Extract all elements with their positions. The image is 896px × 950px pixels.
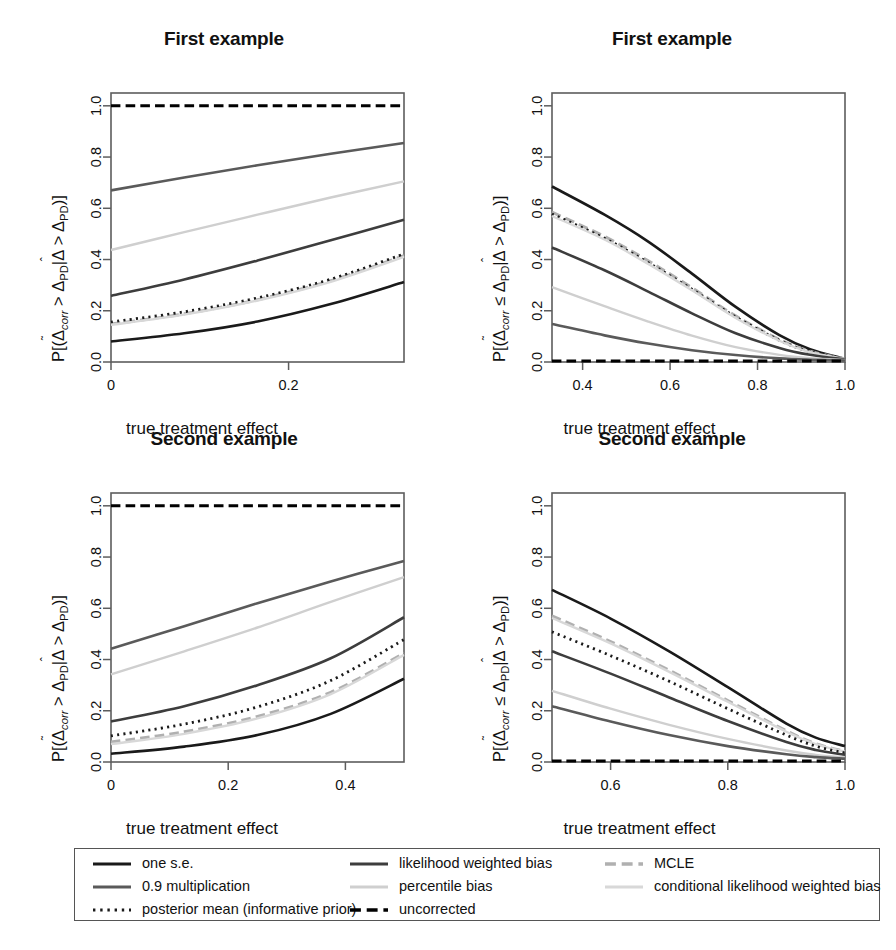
plot-area: 0.00.20.40.60.81.000.2 — [0, 20, 448, 420]
legend-item-mult09[interactable]: 0.9 multiplication — [93, 875, 356, 898]
y-tick-label: 0.6 — [529, 598, 545, 618]
series-line-posterior — [111, 254, 404, 322]
series-line-posterior — [552, 632, 845, 753]
legend-column-2: likelihood weighted biaspercentile biasu… — [350, 852, 552, 921]
series-line-lwb — [111, 220, 404, 296]
y-tick-label: 0.2 — [529, 301, 545, 321]
legend-label-clwb: conditional likelihood weighted bias — [654, 879, 881, 894]
x-tick-label: 0.4 — [573, 377, 593, 393]
y-tick-label: 0.0 — [529, 752, 545, 772]
series-line-percentile — [111, 181, 404, 250]
x-tick-label: 1.0 — [835, 377, 855, 393]
x-tick-label: 0.8 — [747, 377, 767, 393]
x-axis-label: true treatment effect — [0, 819, 404, 839]
chart-panel-bottom-right: Second exampletrue treatment effectP[(Δ̃… — [448, 420, 896, 820]
y-tick-label: 0.4 — [88, 249, 104, 269]
legend-label-uncorrected: uncorrected — [399, 902, 476, 917]
chart-panel-bottom-left: Second exampletrue treatment effectP[(Δ̃… — [0, 420, 448, 820]
series-line-mult09 — [552, 324, 845, 360]
y-tick-label: 0.6 — [88, 198, 104, 218]
series-line-mcle — [111, 256, 404, 324]
y-tick-label: 0.0 — [529, 352, 545, 372]
y-tick-label: 0.8 — [529, 147, 545, 167]
legend-label-posterior: posterior mean (informative prior) — [142, 902, 356, 917]
y-tick-label: 0.2 — [88, 701, 104, 721]
series-line-clwb — [111, 257, 404, 325]
y-tick-label: 0.4 — [88, 649, 104, 669]
legend-item-mcle[interactable]: MCLE — [605, 852, 881, 875]
plot-area: 0.00.20.40.60.81.00.40.60.81.0 — [448, 20, 896, 420]
plot-area: 0.00.20.40.60.81.00.60.81.0 — [448, 420, 896, 820]
series-line-lwb — [111, 617, 404, 721]
series-line-mult09 — [111, 561, 404, 649]
series-line-posterior — [111, 640, 404, 736]
legend-swatch-lwb — [350, 857, 388, 871]
chart-panel-top-left: First exampletrue treatment effectP[(Δ̃c… — [0, 20, 448, 420]
y-tick-label: 1.0 — [529, 96, 545, 116]
legend-swatch-posterior — [93, 903, 131, 917]
figure-root: First exampletrue treatment effectP[(Δ̃c… — [0, 0, 896, 950]
x-axis-label: true treatment effect — [441, 819, 838, 839]
legend-box: one s.e.0.9 multiplicationposterior mean… — [74, 848, 880, 921]
legend-swatch-uncorrected — [350, 903, 388, 917]
x-tick-label: 1.0 — [835, 777, 855, 793]
legend-column-1: one s.e.0.9 multiplicationposterior mean… — [93, 852, 356, 921]
legend-item-posterior[interactable]: posterior mean (informative prior) — [93, 898, 356, 921]
legend-swatch-clwb — [605, 880, 643, 894]
legend-label-percentile: percentile bias — [399, 879, 493, 894]
x-tick-label: 0.4 — [335, 777, 355, 793]
legend-swatch-mult09 — [93, 880, 131, 894]
series-line-one_se — [111, 282, 404, 341]
x-tick-label: 0 — [107, 377, 115, 393]
y-tick-label: 0.0 — [88, 352, 104, 372]
y-tick-label: 1.0 — [88, 496, 104, 516]
legend-item-percentile[interactable]: percentile bias — [350, 875, 552, 898]
x-tick-label: 0.2 — [218, 777, 238, 793]
legend-item-lwb[interactable]: likelihood weighted bias — [350, 852, 552, 875]
x-tick-label: 0.8 — [718, 777, 738, 793]
legend-item-clwb[interactable]: conditional likelihood weighted bias — [605, 875, 881, 898]
plot-frame — [552, 93, 845, 362]
y-tick-label: 0.2 — [529, 701, 545, 721]
y-tick-label: 0.4 — [529, 649, 545, 669]
x-tick-label: 0.6 — [660, 377, 680, 393]
legend-swatch-mcle — [605, 857, 643, 871]
legend-label-one_se: one s.e. — [142, 856, 194, 871]
x-tick-label: 0.2 — [278, 377, 298, 393]
x-tick-label: 0 — [107, 777, 115, 793]
y-tick-label: 1.0 — [88, 96, 104, 116]
y-tick-label: 0.2 — [88, 301, 104, 321]
y-tick-label: 0.4 — [529, 249, 545, 269]
legend-swatch-one_se — [93, 857, 131, 871]
y-tick-label: 0.8 — [88, 147, 104, 167]
legend-label-mcle: MCLE — [654, 856, 694, 871]
y-tick-label: 0.6 — [88, 598, 104, 618]
y-tick-label: 0.6 — [529, 198, 545, 218]
legend-item-uncorrected[interactable]: uncorrected — [350, 898, 552, 921]
series-line-percentile — [111, 577, 404, 674]
legend-swatch-percentile — [350, 880, 388, 894]
y-tick-label: 0.0 — [88, 752, 104, 772]
legend-label-lwb: likelihood weighted bias — [399, 856, 552, 871]
y-tick-label: 0.8 — [529, 547, 545, 567]
plot-area: 0.00.20.40.60.81.000.20.4 — [0, 420, 448, 820]
chart-panel-top-right: First exampletrue treatment effectP[(Δ̃c… — [448, 20, 896, 420]
x-tick-label: 0.6 — [601, 777, 621, 793]
plot-frame — [552, 493, 845, 762]
y-tick-label: 0.8 — [88, 547, 104, 567]
y-tick-label: 1.0 — [529, 496, 545, 516]
legend-label-mult09: 0.9 multiplication — [142, 879, 250, 894]
legend-column-3: MCLEconditional likelihood weighted bias — [605, 852, 881, 898]
legend-item-one_se[interactable]: one s.e. — [93, 852, 356, 875]
series-line-mult09 — [111, 143, 404, 190]
